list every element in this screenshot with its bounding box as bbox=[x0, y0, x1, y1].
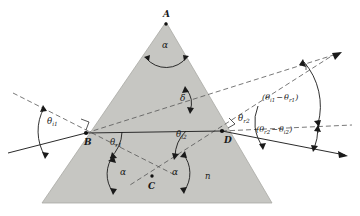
label-theta-r1: θr1 bbox=[110, 138, 122, 148]
arc-expr-upper bbox=[304, 62, 320, 124]
theta-i2-sub: i2 bbox=[181, 134, 187, 140]
label-point-d: D bbox=[224, 136, 232, 145]
expr-lower-minus: − bbox=[270, 125, 279, 134]
label-point-c: C bbox=[148, 182, 155, 191]
label-theta-r2: θr2 bbox=[238, 114, 250, 124]
vertex-dot-c bbox=[150, 174, 153, 177]
label-theta-i2: θi2 bbox=[176, 130, 187, 140]
arc-expr-lower-arrow-bottom bbox=[311, 145, 318, 152]
expr-lower-close: ) bbox=[289, 125, 292, 134]
right-angle-marker-d bbox=[228, 118, 235, 128]
label-angle-apex-alpha: α bbox=[162, 41, 168, 50]
arc-expr-lower-arrow-top bbox=[314, 125, 321, 132]
arc-theta-i1 bbox=[38, 108, 45, 156]
incident-ray bbox=[8, 133, 86, 153]
label-expression-upper: (θi1−θr1) bbox=[262, 94, 298, 103]
emergent-ray-arrowhead bbox=[338, 151, 348, 158]
label-expression-lower: (θr2−θi2) bbox=[256, 126, 292, 135]
theta-r2-sub: r2 bbox=[243, 118, 250, 124]
extension-ray-arrowhead bbox=[332, 52, 342, 60]
theta-r1-sub: r1 bbox=[115, 142, 122, 148]
label-apex-a: A bbox=[163, 10, 170, 19]
label-angle-base-left-alpha: α bbox=[120, 168, 126, 177]
arc-theta-i1-arrow-bottom bbox=[42, 152, 49, 159]
right-angle-marker-b bbox=[81, 119, 89, 130]
vertex-dot-d bbox=[220, 129, 224, 133]
label-theta-i1: θi1 bbox=[47, 117, 58, 127]
vertex-dot-b bbox=[84, 131, 88, 135]
theta-i1-sub: i1 bbox=[52, 121, 58, 127]
label-angle-delta: δ bbox=[180, 94, 185, 103]
label-refractive-index-n: n bbox=[205, 172, 210, 181]
label-angle-base-right-alpha: α bbox=[172, 168, 178, 177]
label-point-b: B bbox=[84, 138, 92, 147]
arc-theta-i1-arrow-top bbox=[40, 105, 47, 112]
vertex-dot-a bbox=[164, 22, 167, 25]
expr-upper-minus: − bbox=[275, 93, 284, 102]
prism-refraction-figure: A α B C D n θi1 θr1 θi2 θr2 δ α α (θi1−θ… bbox=[0, 0, 360, 216]
expr-upper-close: ) bbox=[295, 93, 298, 102]
arc-theta-r2-arrow bbox=[259, 143, 266, 150]
diagram-canvas bbox=[0, 0, 360, 216]
